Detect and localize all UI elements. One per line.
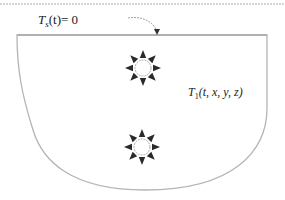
heat-ray-arrow-icon (153, 65, 161, 71)
heat-ray-arrow-icon (139, 157, 145, 165)
pointer-arrowhead-icon (154, 29, 160, 35)
heat-ray-arrow-icon (152, 144, 160, 150)
heat-ray-arrow-icon (140, 50, 146, 58)
surface-temperature-label: Ts(t)= 0 (38, 12, 78, 29)
heat-ray-arrow-icon (139, 129, 145, 137)
heat-source-upper-icon (125, 50, 161, 86)
pointer-arrow (128, 18, 157, 31)
source-circle (134, 139, 150, 155)
domain-boundary (17, 35, 267, 190)
source-circle (135, 60, 151, 76)
heat-ray-arrow-icon (124, 144, 132, 150)
heat-conduction-diagram: Ts(t)= 0 T1(t, x, y, z) (0, 0, 285, 200)
heat-ray-arrow-icon (125, 65, 133, 71)
heat-source-lower-icon (124, 129, 160, 165)
heat-ray-arrow-icon (140, 78, 146, 86)
domain-temperature-label: T1(t, x, y, z) (188, 85, 243, 101)
